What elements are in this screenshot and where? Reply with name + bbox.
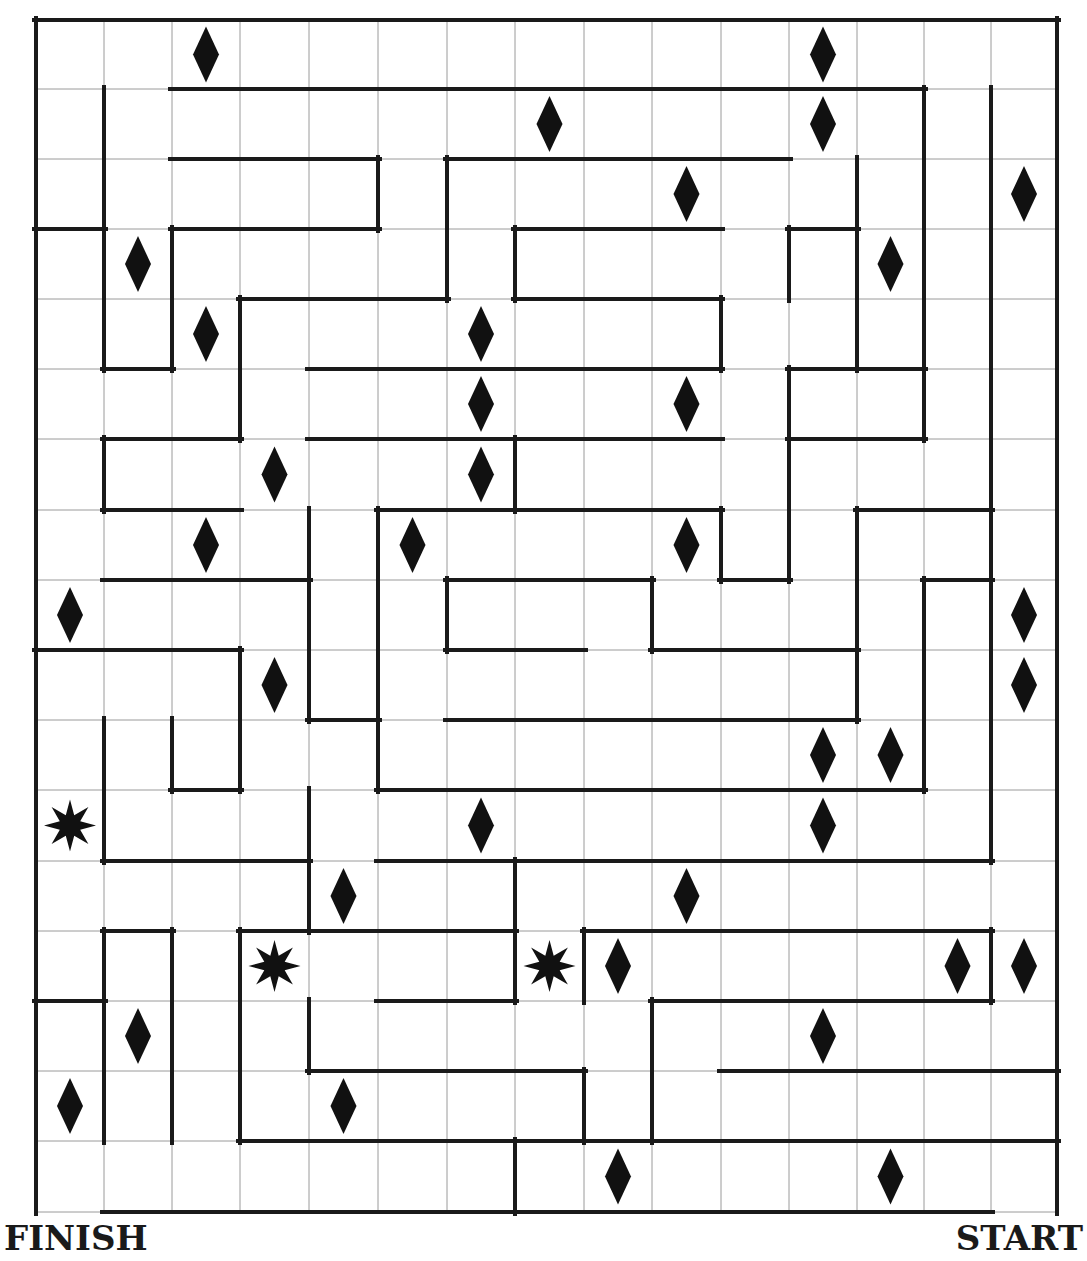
start-label: START — [956, 1218, 1083, 1258]
diamond-icon — [605, 1149, 631, 1205]
diamond-icon — [331, 1078, 357, 1134]
diamond-icon — [1011, 166, 1037, 222]
diamond-icon — [400, 517, 426, 573]
diamond-icon — [674, 166, 700, 222]
diamond-icon — [1011, 657, 1037, 713]
diamond-icon — [193, 517, 219, 573]
diamond-icon — [193, 27, 219, 83]
diamond-icon — [810, 798, 836, 854]
diamond-icon — [537, 96, 563, 152]
maze-markers — [44, 27, 1037, 1205]
diamond-icon — [674, 868, 700, 924]
diamond-icon — [125, 1008, 151, 1064]
diamond-icon — [57, 1078, 83, 1134]
diamond-icon — [468, 376, 494, 432]
diamond-icon — [674, 376, 700, 432]
diamond-icon — [1011, 938, 1037, 994]
diamond-icon — [468, 798, 494, 854]
diamond-icon — [468, 306, 494, 362]
star-icon — [249, 940, 301, 992]
diamond-icon — [331, 868, 357, 924]
diamond-icon — [810, 1008, 836, 1064]
diamond-icon — [945, 938, 971, 994]
diamond-icon — [878, 236, 904, 292]
finish-label: FINISH — [4, 1218, 148, 1258]
maze-walls — [34, 18, 1059, 1214]
star-icon — [44, 800, 96, 852]
diamond-icon — [810, 96, 836, 152]
star-icon — [524, 940, 576, 992]
diamond-icon — [674, 517, 700, 573]
diamond-icon — [1011, 587, 1037, 643]
maze-board — [0, 0, 1087, 1261]
diamond-icon — [125, 236, 151, 292]
diamond-icon — [878, 727, 904, 783]
diamond-icon — [262, 447, 288, 503]
grid-lines — [36, 20, 1057, 1212]
diamond-icon — [810, 727, 836, 783]
diamond-icon — [878, 1149, 904, 1205]
diamond-icon — [262, 657, 288, 713]
diamond-icon — [468, 447, 494, 503]
diamond-icon — [605, 938, 631, 994]
diamond-icon — [193, 306, 219, 362]
diamond-icon — [57, 587, 83, 643]
diamond-icon — [810, 27, 836, 83]
